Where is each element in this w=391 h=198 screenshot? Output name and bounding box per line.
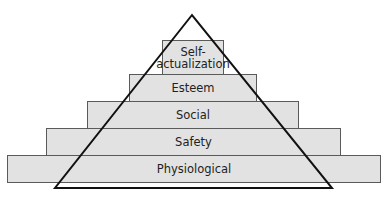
level-self-actualization: Self- actualization <box>162 40 224 75</box>
level-label: Esteem <box>171 82 214 94</box>
level-label-line2: actualization <box>156 58 230 70</box>
level-social: Social <box>87 101 299 129</box>
level-label: Physiological <box>157 163 232 175</box>
level-label: Social <box>176 109 210 121</box>
level-esteem: Esteem <box>129 74 257 102</box>
level-safety: Safety <box>46 128 341 156</box>
level-label-line1: Self- <box>180 46 205 58</box>
level-physiological: Physiological <box>7 155 381 183</box>
level-label: Safety <box>175 136 212 148</box>
needs-pyramid-diagram: Physiological Safety Social Esteem Self-… <box>0 0 391 198</box>
